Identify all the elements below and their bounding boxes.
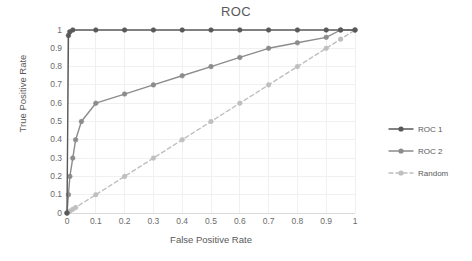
legend-item-roc-2[interactable]: ROC 2 (388, 140, 468, 162)
y-tick-label: 0 (36, 209, 62, 218)
x-tick-label: 0 (65, 217, 70, 226)
legend-item-label: ROC 2 (418, 147, 442, 156)
chart-legend: ROC 1ROC 2Random (388, 118, 468, 184)
y-axis-title: True Positive Rate (17, 34, 28, 154)
x-tick-label: 0.2 (119, 217, 131, 226)
y-tick-label: 0.8 (36, 62, 62, 71)
chart-title: ROC (0, 4, 472, 19)
legend-item-roc-1[interactable]: ROC 1 (388, 118, 468, 140)
y-tick-label: 1 (36, 26, 62, 35)
x-tick-label: 0.9 (320, 217, 332, 226)
x-tick-label: 0.5 (205, 217, 217, 226)
y-tick-label: 0.1 (36, 190, 62, 199)
x-tick-label: 0.3 (147, 217, 159, 226)
y-tick-label: 0.2 (36, 172, 62, 181)
y-tick-label: 0.6 (36, 99, 62, 108)
legend-swatch-icon (388, 145, 414, 157)
plot-canvas (67, 30, 355, 213)
legend-item-random[interactable]: Random (388, 162, 468, 184)
x-axis-title: False Positive Rate (67, 234, 355, 245)
x-axis-ticks: 00.10.20.30.40.50.60.70.80.91 (67, 217, 355, 231)
y-tick-label: 0.5 (36, 117, 62, 126)
y-tick-label: 0.9 (36, 44, 62, 53)
legend-item-label: ROC 1 (418, 125, 442, 134)
x-tick-label: 0.4 (176, 217, 188, 226)
roc-chart: ROC True Positive Rate False Positive Ra… (0, 0, 472, 261)
y-tick-label: 0.7 (36, 80, 62, 89)
y-axis-ticks: 00.10.20.30.40.50.60.70.80.91 (36, 30, 62, 213)
legend-item-label: Random (418, 169, 448, 178)
x-tick-label: 0.1 (90, 217, 102, 226)
legend-swatch-icon (388, 123, 414, 135)
y-tick-label: 0.3 (36, 154, 62, 163)
x-tick-label: 0.7 (263, 217, 275, 226)
x-tick-label: 0.8 (291, 217, 303, 226)
y-tick-label: 0.4 (36, 135, 62, 144)
legend-swatch-icon (388, 167, 414, 179)
plot-area (67, 30, 355, 213)
x-tick-label: 1 (353, 217, 358, 226)
x-tick-label: 0.6 (234, 217, 246, 226)
